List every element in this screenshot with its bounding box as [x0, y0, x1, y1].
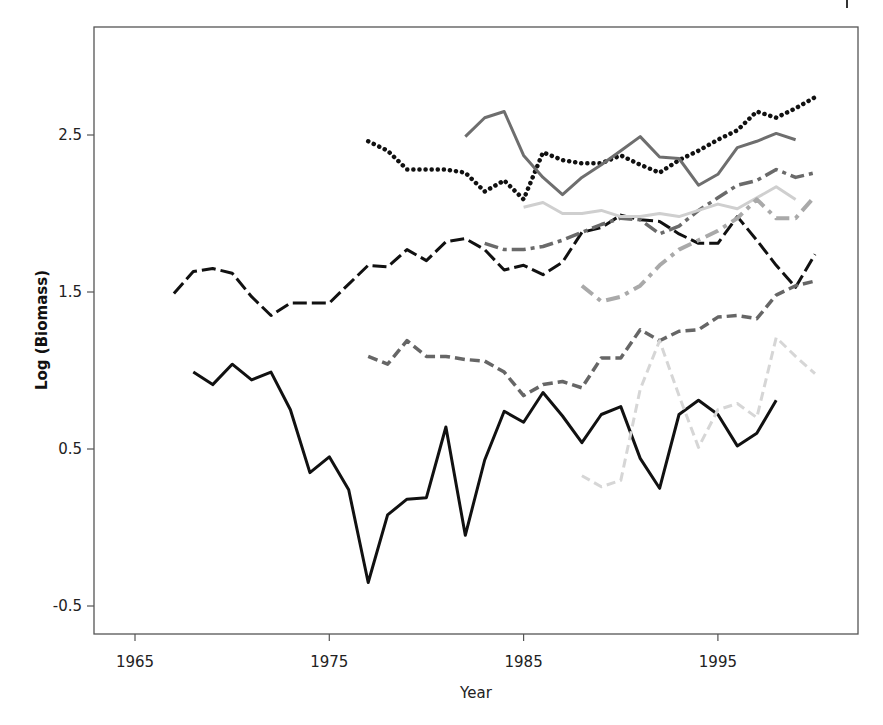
x-tick-label: 1975 [310, 653, 348, 671]
y-tick-label: 2.5 [58, 126, 82, 144]
y-axis-title: Log (Biomass) [33, 270, 51, 390]
x-tick-label: 1995 [699, 653, 737, 671]
x-axis-title: Year [459, 684, 493, 702]
y-tick-label: 1.5 [58, 283, 82, 301]
x-axis-ticks: 1965197519851995 [116, 634, 737, 671]
x-tick-label: 1985 [505, 653, 543, 671]
chart-canvas: -0.50.51.52.5 1965197519851995 Year Log … [0, 0, 883, 725]
plot-frame [94, 27, 858, 634]
y-axis-ticks: -0.50.51.52.5 [53, 126, 94, 615]
y-tick-label: 0.5 [58, 440, 82, 458]
edge-mark [846, 0, 848, 8]
y-tick-label: -0.5 [53, 597, 82, 615]
x-tick-label: 1965 [116, 653, 154, 671]
